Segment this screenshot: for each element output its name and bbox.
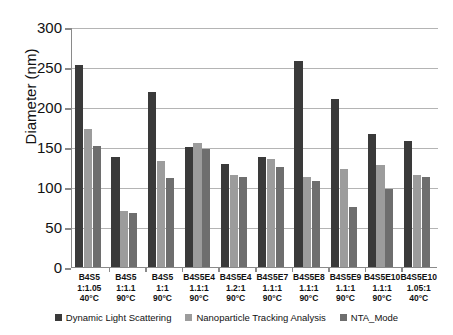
legend-label: NTA_Mode [351, 312, 398, 323]
legend-item[interactable]: Dynamic Light Scattering [55, 312, 172, 323]
bar [404, 141, 412, 267]
bar [376, 165, 384, 267]
y-axis-tick-label: 50 [0, 219, 62, 236]
bar [202, 149, 210, 267]
legend-swatch-icon [340, 314, 347, 321]
legend-label: Nanoparticle Tracking Analysis [196, 312, 325, 323]
bar [312, 181, 320, 267]
x-axis-label-line: B4S5E10 [395, 272, 442, 283]
bar-group [72, 27, 109, 267]
bar-group [328, 27, 365, 267]
bar [340, 169, 348, 267]
bar [422, 177, 430, 267]
bar-group [182, 27, 219, 267]
bar [239, 177, 247, 267]
bar [258, 157, 266, 267]
legend-item[interactable]: Nanoparticle Tracking Analysis [185, 312, 325, 323]
x-axis-label-line: 1.05:1 [395, 283, 442, 294]
legend-swatch-icon [185, 314, 192, 321]
bar-group [401, 27, 438, 267]
bar [157, 161, 165, 267]
y-axis-tick-label: 100 [0, 179, 62, 196]
bar-group [109, 27, 146, 267]
y-axis-tick-label: 200 [0, 99, 62, 116]
y-axis-tick-label: 0 [0, 259, 62, 276]
bar [166, 178, 174, 267]
bar [368, 134, 376, 267]
bar [331, 99, 339, 267]
bar [349, 207, 357, 267]
bar [276, 167, 284, 267]
legend-item[interactable]: NTA_Mode [340, 312, 398, 323]
bar [185, 147, 193, 267]
bar [303, 177, 311, 267]
y-axis-tick-label: 250 [0, 59, 62, 76]
bar [385, 189, 393, 267]
bar [84, 129, 92, 267]
y-axis-tick-label: 300 [0, 19, 62, 36]
x-axis-label: B4S5E101.05:140°C [395, 272, 442, 304]
bar-group [145, 27, 182, 267]
legend-swatch-icon [55, 314, 62, 321]
plot-area [71, 28, 437, 268]
y-axis-tick-mark [65, 268, 71, 270]
bar [111, 157, 119, 267]
chart-legend: Dynamic Light ScatteringNanoparticle Tra… [0, 312, 453, 323]
bar-group [365, 27, 402, 267]
bar [93, 146, 101, 267]
y-axis-tick-label: 150 [0, 139, 62, 156]
bar [230, 175, 238, 267]
bar [193, 143, 201, 267]
bar-group [255, 27, 292, 267]
bar [267, 159, 275, 267]
bar-group [292, 27, 329, 267]
x-axis-label-line: 40°C [395, 293, 442, 304]
bar [148, 92, 156, 267]
bar-group [218, 27, 255, 267]
bar [294, 61, 302, 267]
bar [413, 175, 421, 267]
bar [129, 213, 137, 267]
bar [75, 65, 83, 267]
bar-chart: Diameter (nm) 050100150200250300 B4S51:1… [0, 0, 453, 335]
bar [221, 164, 229, 267]
legend-label: Dynamic Light Scattering [66, 312, 172, 323]
bar [120, 211, 128, 267]
